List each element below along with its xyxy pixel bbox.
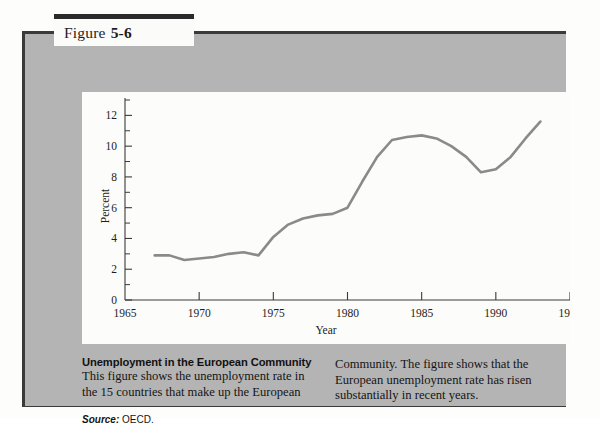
x-tick-label: 1990	[484, 307, 507, 319]
x-tick-label: 1995	[559, 307, 571, 319]
caption-left-column: Unemployment in the European Community T…	[82, 356, 319, 404]
caption-title: Unemployment in the European Community	[82, 356, 319, 368]
figure-label: Figure 5-6	[54, 20, 194, 46]
x-tick-label: 1965	[114, 307, 137, 319]
data-line-unemployment-rate	[155, 122, 541, 260]
y-tick-label: 8	[111, 171, 117, 183]
caption-columns: Unemployment in the European Community T…	[82, 356, 572, 404]
y-tick-label: 2	[111, 263, 117, 275]
x-tick-label: 1975	[262, 307, 285, 319]
figure-label-rule	[54, 14, 194, 19]
y-tick-label: 12	[106, 109, 118, 121]
y-axis-label: Percent	[99, 161, 111, 251]
y-tick-label: 4	[111, 232, 117, 244]
y-tick-label: 10	[106, 140, 118, 152]
figure-label-number: 5-6	[111, 24, 132, 42]
source-value: OECD.	[122, 414, 154, 425]
caption-right-column: Community. The figure shows that the Eur…	[335, 356, 572, 404]
x-tick-label: 1980	[336, 307, 359, 319]
y-tick-label: 6	[111, 202, 117, 214]
caption-block: Unemployment in the European Community T…	[82, 356, 572, 404]
y-tick-label: 0	[111, 294, 117, 306]
caption-right-text: Community. The figure shows that the Eur…	[335, 356, 572, 404]
source-line: Source: OECD.	[82, 414, 154, 425]
figure-panel: 0246810121965197019751980198519901995 Pe…	[25, 34, 566, 406]
x-tick-label: 1985	[410, 307, 433, 319]
line-chart: 0246810121965197019751980198519901995	[82, 92, 570, 344]
chart-area: 0246810121965197019751980198519901995 Pe…	[82, 92, 570, 344]
figure-label-word: Figure	[64, 24, 106, 42]
x-tick-label: 1970	[188, 307, 211, 319]
x-axis-label: Year	[82, 324, 570, 336]
source-word: Source:	[82, 414, 119, 425]
caption-left-text: This figure shows the unemployment rate …	[82, 369, 319, 400]
